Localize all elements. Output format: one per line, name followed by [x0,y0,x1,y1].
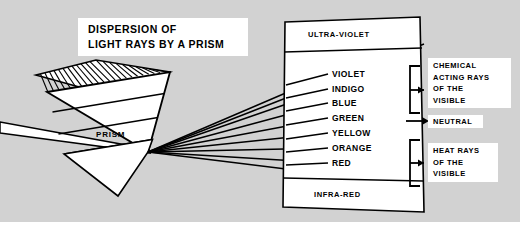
chemical-rays-annotation: CHEMICAL ACTING RAYS OF THE VISIBLE [428,58,511,108]
heat-rays-annotation: HEAT RAYS OF THE VISIBLE [428,143,498,182]
chemical-line-2: ACTING RAYS [433,72,511,84]
heat-line-3: VISIBLE [433,168,498,180]
spectrum-label-blue: BLUE [332,98,357,108]
chemical-line-4: VISIBLE [433,95,511,107]
neutral-label: NEUTRAL [433,116,483,128]
spectrum-label-green: GREEN [332,113,364,123]
heat-line-2: OF THE [433,157,498,169]
neutral-annotation: NEUTRAL [428,115,483,128]
chemical-line-3: OF THE [433,83,511,95]
ultraviolet-label: ULTRA-VIOLET [308,30,370,39]
prism-label: PRISM [96,130,125,139]
heat-line-1: HEAT RAYS [433,145,498,157]
title-box: DISPERSION OF LIGHT RAYS BY A PRISM [78,18,248,56]
title-line-1: DISPERSION OF [88,22,248,37]
dispersion-diagram: DISPERSION OF LIGHT RAYS BY A PRISM PRIS… [0,0,520,234]
spectrum-label-violet: VIOLET [332,69,365,79]
chemical-line-1: CHEMICAL [433,60,511,72]
infrared-label: INFRA-RED [314,190,361,199]
title-line-2: LIGHT RAYS BY A PRISM [88,37,248,52]
spectrum-label-yellow: YELLOW [332,128,371,138]
spectrum-label-orange: ORANGE [332,143,372,153]
spectrum-label-indigo: INDIGO [332,84,365,94]
spectrum-label-red: RED [332,158,351,168]
